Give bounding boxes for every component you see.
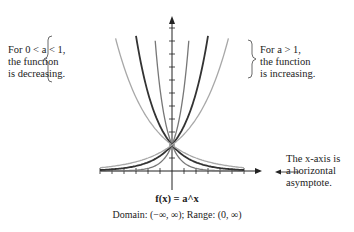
decreasing-annotation: For 0 < a < 1, the function is decreasin… [8,44,65,80]
right-brace [248,40,256,78]
curve-f-x-3-x [100,36,208,170]
x-axis-arrow-icon [255,168,262,174]
increasing-annotation: For a > 1, the function is increasing. [260,44,315,80]
domain-range-caption: Domain: (−∞, ∞); Range: (0, ∞) [0,209,354,220]
y-axis-arrow-icon [169,16,175,24]
curve-f-x-1-2-x [116,38,244,167]
pointer-arrow-icon [275,170,281,175]
curve-f-x-1-3-x [136,36,244,170]
figure-title: f(x) = a^x [0,193,354,204]
curve-f-x-2-x [100,38,228,167]
asymptote-annotation: The x-axis is a horizontal asymptote. [286,153,340,189]
y-axis [169,16,175,190]
